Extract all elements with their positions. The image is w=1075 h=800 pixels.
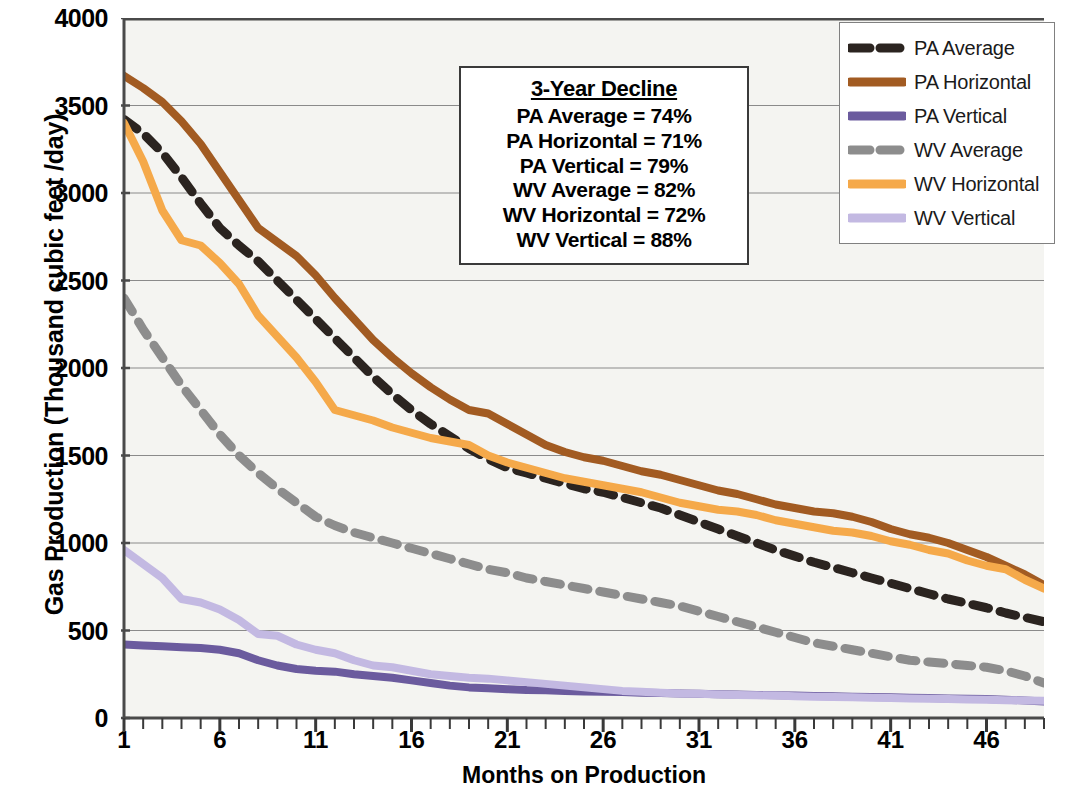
y-tick-label: 1000 <box>0 529 108 558</box>
y-tick-label: 4000 <box>0 4 108 33</box>
y-tick-label: 1500 <box>0 441 108 470</box>
y-tick-label: 0 <box>0 704 108 733</box>
y-tick-label: 500 <box>0 616 108 645</box>
chart-root: Gas Production (Thousand cubic feet /day… <box>0 0 1075 800</box>
y-tick-label: 3500 <box>0 91 108 120</box>
y-tick-label: 2500 <box>0 266 108 295</box>
x-axis-title: Months on Production <box>124 762 1044 789</box>
y-tick-label: 2000 <box>0 354 108 383</box>
y-tick-label: 3000 <box>0 179 108 208</box>
axes <box>121 18 1047 764</box>
